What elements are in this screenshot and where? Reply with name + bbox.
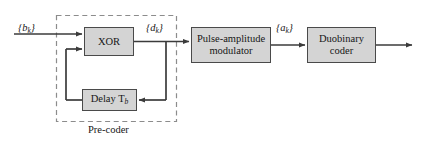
block-diagram-canvas: XOR Delay Tb Pulse-amplitude modulator D… [0, 0, 426, 148]
block-delay-label: Delay Tb [91, 93, 129, 106]
signal-label-bk-close: } [31, 22, 35, 33]
signal-label-dk: {dk} [146, 22, 163, 35]
block-pam-label: Pulse-amplitude modulator [197, 33, 265, 57]
block-delay[interactable]: Delay Tb [82, 89, 137, 111]
block-xor-label: XOR [98, 36, 120, 48]
block-delay-label-text: Delay T [91, 93, 125, 104]
signal-label-bk: {bk} [18, 22, 35, 35]
signal-label-ak: {ak} [276, 22, 293, 35]
block-delay-label-subscript: b [125, 97, 129, 106]
block-pulse-amplitude-modulator[interactable]: Pulse-amplitude modulator [191, 27, 271, 63]
block-duobinary-label: Duobinary coder [319, 33, 364, 57]
signal-label-ak-close: } [289, 22, 293, 33]
signal-label-dk-close: } [159, 22, 163, 33]
block-xor[interactable]: XOR [84, 27, 134, 56]
diagram-wiring-layer [0, 0, 426, 148]
block-duobinary-coder[interactable]: Duobinary coder [307, 27, 376, 63]
precoder-group-label: Pre-coder [88, 124, 129, 135]
